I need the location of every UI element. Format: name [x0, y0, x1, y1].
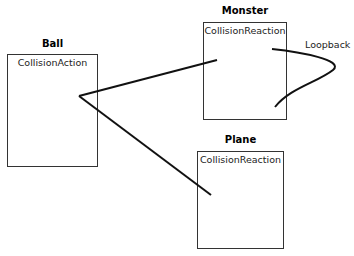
- ball-to-plane-line: [79, 96, 211, 195]
- connection-lines: [0, 0, 354, 256]
- loopback-curve: [272, 49, 335, 107]
- ball-to-monster-line: [79, 60, 217, 96]
